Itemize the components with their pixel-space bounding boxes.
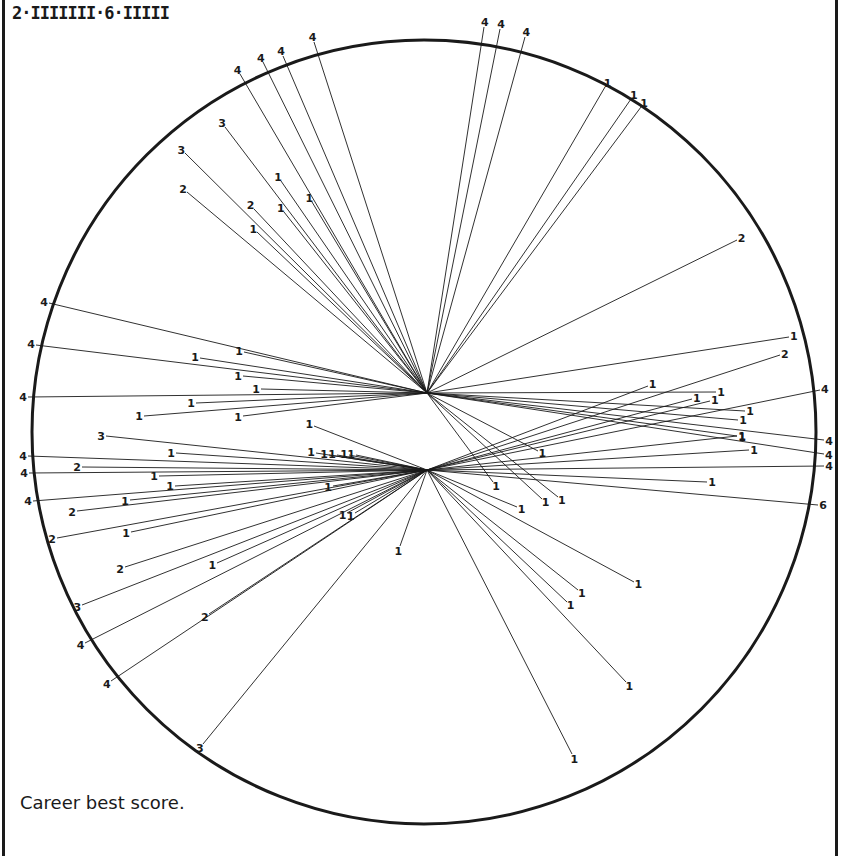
shot-line (243, 393, 427, 416)
shot-runs-label: 4 (103, 678, 111, 691)
shot-line (427, 87, 605, 393)
shot-line (427, 29, 500, 393)
shot-runs-label: 1 (234, 370, 242, 383)
shot-line (427, 399, 692, 470)
shot-line (281, 181, 427, 393)
shot-line (28, 393, 427, 397)
shot-runs-label: 1 (626, 680, 634, 693)
shot-runs-label: 1 (187, 397, 195, 410)
shot-line (427, 27, 484, 393)
shot-runs-label: 1 (649, 378, 657, 391)
shot-line (427, 436, 737, 470)
shot-runs-label: 4 (27, 338, 35, 351)
shot-line (427, 470, 634, 582)
shot-line (314, 42, 427, 393)
shot-runs-label: 1 (347, 448, 355, 461)
shot-runs-label: 1 (121, 495, 129, 508)
shot-runs-label: 1 (739, 414, 747, 427)
shot-runs-label: 4 (40, 296, 48, 309)
shot-runs-label: 1 (250, 223, 258, 236)
shot-runs-label: 1 (558, 494, 566, 507)
shot-runs-label: 1 (738, 430, 746, 443)
shot-runs-label: 1 (150, 470, 158, 483)
shot-line (263, 62, 427, 393)
shot-line (106, 436, 427, 470)
run-tally: 2·IIIIIII·6·IIIII (12, 3, 169, 23)
shot-runs-label: 4 (825, 460, 833, 473)
shot-runs-label: 4 (825, 435, 833, 448)
shot-runs-label: 2 (781, 348, 789, 361)
shot-runs-label: 1 (708, 476, 716, 489)
shot-runs-label: 4 (497, 18, 505, 31)
shot-runs-label: 2 (73, 461, 81, 474)
shot-runs-label: 1 (347, 510, 355, 523)
shot-runs-label: 1 (790, 330, 798, 343)
shot-line (427, 392, 716, 393)
shot-line (427, 470, 572, 754)
shot-runs-label: 1 (305, 418, 313, 431)
shot-line (225, 127, 427, 393)
shot-runs-label: 4 (481, 16, 489, 29)
shot-runs-label: 4 (19, 391, 27, 404)
wagon-wheel-chart: 4444444111332112112114441111111111441111… (0, 0, 844, 856)
shot-runs-label: 1 (570, 753, 578, 766)
shot-runs-label: 4 (277, 45, 285, 58)
shot-runs-label: 1 (750, 444, 758, 457)
shot-runs-label: 1 (394, 545, 402, 558)
shot-runs-label: 3 (73, 601, 81, 614)
chart-caption: Career best score. (20, 792, 185, 813)
shot-runs-label: 1 (135, 410, 143, 423)
shot-line (427, 337, 789, 393)
shot-line (187, 192, 427, 393)
shot-runs-label: 1 (578, 587, 586, 600)
shot-runs-label: 2 (179, 183, 187, 196)
shot-runs-label: 1 (328, 448, 336, 461)
shot-runs-label: 4 (257, 52, 265, 65)
shot-runs-label: 1 (166, 480, 174, 493)
shot-line (427, 393, 824, 454)
shot-line (283, 56, 427, 393)
shot-line (427, 240, 737, 393)
shot-runs-label: 1 (307, 446, 315, 459)
shot-runs-label: 1 (191, 351, 199, 364)
shot-runs-label: 4 (821, 383, 829, 396)
shot-runs-label: 6 (819, 499, 827, 512)
shot-runs-label: 1 (234, 411, 242, 424)
shot-line (427, 355, 780, 470)
shot-runs-label: 1 (542, 496, 550, 509)
shot-runs-label: 4 (77, 639, 85, 652)
shot-runs-label: 1 (122, 527, 130, 540)
shot-runs-label: 1 (567, 599, 575, 612)
shot-runs-label: 1 (339, 509, 347, 522)
shot-runs-label: 1 (277, 202, 285, 215)
boundary-circle (32, 40, 816, 824)
shot-runs-label: 1 (746, 405, 754, 418)
shot-runs-label: 3 (97, 430, 105, 443)
shot-line (427, 401, 710, 470)
shot-runs-label: 1 (693, 392, 701, 405)
shot-line (427, 37, 525, 393)
shot-runs-label: 1 (324, 481, 332, 494)
shot-line (427, 470, 818, 505)
shot-runs-label: 3 (196, 742, 204, 755)
shot-line (254, 209, 427, 393)
shot-runs-label: 4 (234, 64, 242, 77)
shot-runs-label: 1 (274, 171, 282, 184)
shot-runs-label: 4 (20, 467, 28, 480)
shot-runs-label: 2 (201, 611, 209, 624)
shot-line (312, 202, 427, 393)
shot-line (427, 470, 626, 682)
shot-runs-label: 1 (320, 448, 328, 461)
shot-line (85, 470, 427, 643)
shot-runs-label: 2 (116, 563, 124, 576)
shot-line (427, 386, 648, 470)
shot-line (130, 470, 427, 500)
shot-line (427, 470, 517, 507)
shot-line (427, 470, 707, 482)
shot-runs-label: 3 (178, 144, 186, 157)
shot-runs-label: 1 (604, 77, 612, 90)
shot-runs-label: 1 (711, 394, 719, 407)
shot-line (427, 107, 641, 393)
shot-runs-label: 2 (48, 533, 56, 546)
shot-runs-label: 2 (247, 199, 255, 212)
